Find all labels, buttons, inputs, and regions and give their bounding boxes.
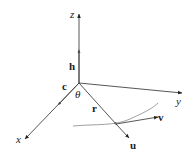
theta-label: θ (75, 88, 81, 100)
y-axis-label: y (175, 95, 181, 107)
u-vector (116, 124, 129, 138)
v-vector (116, 117, 158, 124)
c-label: c (62, 80, 67, 92)
x-axis-label: x (15, 133, 21, 145)
u-label: u (130, 139, 136, 151)
r-label: r (92, 102, 97, 114)
z-axis-label: z (69, 8, 75, 20)
r-vector (79, 83, 116, 124)
vector-diagram: z y x h c r u v θ (0, 0, 193, 159)
h-label: h (69, 60, 75, 72)
v-label: v (158, 111, 164, 123)
trajectory-curve (73, 103, 158, 126)
y-axis (79, 83, 182, 93)
